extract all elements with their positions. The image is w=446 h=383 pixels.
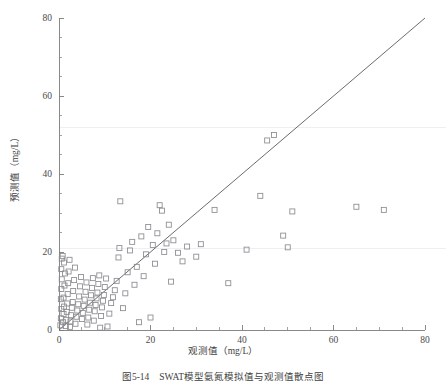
data-points xyxy=(58,133,386,331)
svg-text:80: 80 xyxy=(43,13,53,23)
svg-text:0: 0 xyxy=(47,325,52,335)
svg-text:20: 20 xyxy=(43,247,53,257)
gridlines xyxy=(59,127,446,248)
svg-text:40: 40 xyxy=(43,169,53,179)
svg-text:60: 60 xyxy=(43,91,53,101)
x-axis-title: 观测值（mg/L） xyxy=(0,343,446,357)
figure-caption: 图5-14 SWAT模型氨氮模拟值与观测值散点图 xyxy=(0,369,446,383)
y-axis-title: 预测值（mg/L） xyxy=(7,112,21,222)
